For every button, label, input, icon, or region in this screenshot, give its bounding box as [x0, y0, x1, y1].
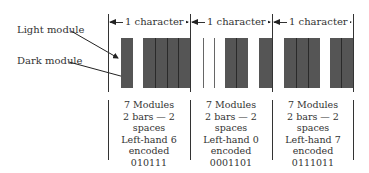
- dark-module: [121, 38, 133, 88]
- character-set: Left-hand 7: [272, 134, 354, 146]
- dark-module: [259, 38, 272, 88]
- module-separator: [296, 38, 297, 88]
- modules-count: 7 Modules: [272, 99, 354, 111]
- character-2-description: 7 Modules 2 bars — 2 spaces Left-hand 0 …: [190, 99, 272, 168]
- binary-code: 010111: [108, 157, 190, 169]
- bars-spaces: 2 bars — 2 spaces: [272, 111, 354, 134]
- encoded-label: encoded: [190, 145, 272, 157]
- binary-code: 0111011: [272, 157, 354, 169]
- encoded-label: encoded: [272, 145, 354, 157]
- character-3-description: 7 Modules 2 bars — 2 spaces Left-hand 7 …: [272, 99, 354, 168]
- character-1-description: 7 Modules 2 bars — 2 spaces Left-hand 6 …: [108, 99, 190, 168]
- arrow-left-icon: [273, 19, 280, 25]
- divider-line: [272, 14, 273, 92]
- divider-line: [353, 14, 354, 92]
- arrow-left-icon: [109, 19, 116, 25]
- binary-code: 0001101: [190, 157, 272, 169]
- character-width-label: 1 character: [123, 16, 186, 28]
- arrow-left-icon: [191, 19, 198, 25]
- modules-count: 7 Modules: [108, 99, 190, 111]
- module-separator: [308, 38, 309, 88]
- module-separator: [155, 38, 156, 88]
- dark-module-arrow-icon: [69, 62, 128, 78]
- module-separator: [178, 38, 179, 88]
- divider-line: [190, 14, 191, 92]
- light-module-arrow-icon: [71, 31, 118, 58]
- module-separator: [236, 38, 237, 88]
- character-set: Left-hand 0: [190, 134, 272, 146]
- divider-line: [108, 14, 109, 92]
- light-module-boundary: [203, 38, 204, 88]
- module-separator: [341, 38, 342, 88]
- light-module-boundary: [214, 38, 215, 88]
- character-width-label: 1 character: [287, 16, 350, 28]
- bars-spaces: 2 bars — 2 spaces: [108, 111, 190, 134]
- dark-module-group: [284, 38, 320, 88]
- encoded-label: encoded: [108, 145, 190, 157]
- module-separator: [167, 38, 168, 88]
- bars-spaces: 2 bars — 2 spaces: [190, 111, 272, 134]
- modules-count: 7 Modules: [190, 99, 272, 111]
- character-set: Left-hand 6: [108, 134, 190, 146]
- character-width-label: 1 character: [205, 16, 268, 28]
